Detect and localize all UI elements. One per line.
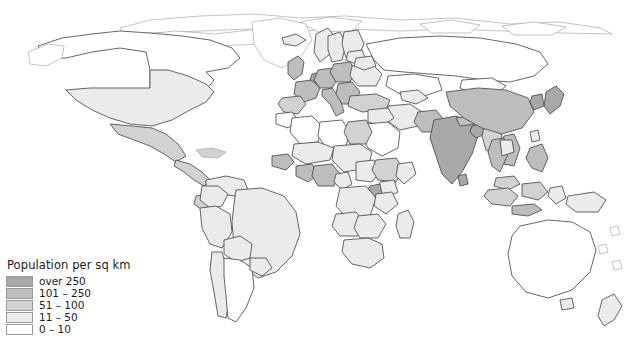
region-pacific-islands xyxy=(610,226,620,236)
legend-swatch-11-50 xyxy=(6,312,33,323)
region-taiwan xyxy=(530,130,540,142)
legend-label-51-100: 51 – 100 xyxy=(39,300,84,311)
legend-label-11-50: 11 – 50 xyxy=(39,312,78,323)
world-population-density-map: .land{stroke:#9a9a9a;stroke-width:.6;} .… xyxy=(0,0,639,364)
legend-label-101-250: 101 – 250 xyxy=(39,288,91,299)
region-sri-lanka xyxy=(458,174,468,186)
legend-label-0-10: 0 – 10 xyxy=(39,324,71,335)
legend-item-101-250: 101 – 250 xyxy=(6,287,131,299)
region-tasmania xyxy=(560,298,574,310)
legend-swatch-101-250 xyxy=(6,288,33,299)
legend-item-0-10: 0 – 10 xyxy=(6,323,131,335)
legend-item-over-250: over 250 xyxy=(6,275,131,287)
region-egypt xyxy=(344,120,372,144)
legend-item-51-100: 51 – 100 xyxy=(6,299,131,311)
map-legend: Population per sq km over 250 101 – 250 … xyxy=(6,258,131,335)
legend-rows: over 250 101 – 250 51 – 100 11 – 50 0 – … xyxy=(6,275,131,335)
legend-swatch-over-250 xyxy=(6,276,33,287)
legend-label-over-250: over 250 xyxy=(39,276,86,287)
legend-item-11-50: 11 – 50 xyxy=(6,311,131,323)
legend-title: Population per sq km xyxy=(7,258,131,272)
legend-swatch-0-10 xyxy=(6,324,33,335)
legend-swatch-51-100 xyxy=(6,300,33,311)
